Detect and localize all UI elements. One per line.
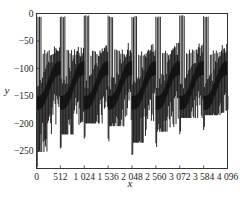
chart: 05121 0241 5362 0482 5603 0723 5844 096 …	[0, 0, 240, 197]
x-tick-label: 3 072	[169, 172, 191, 182]
x-axis-label: x	[127, 177, 133, 189]
y-tick-label: −100	[14, 64, 34, 74]
x-tick-label: 4 096	[217, 172, 239, 182]
x-axis: 05121 0241 5362 0482 5603 0723 5844 096	[34, 166, 238, 182]
x-tick-label: 2 560	[145, 172, 167, 182]
y-tick-label: −250	[14, 146, 34, 156]
y-tick-label: 0	[29, 9, 34, 19]
x-tick-label: 3 584	[193, 172, 215, 182]
x-tick-label: 1 536	[97, 172, 119, 182]
y-axis-label: y	[4, 84, 10, 96]
x-tick-label: 0	[34, 172, 39, 182]
signal-line	[37, 15, 228, 167]
y-tick-label: −150	[14, 91, 34, 101]
y-tick-label: −50	[19, 36, 34, 46]
y-axis: 0−50−100−150−200−250	[14, 9, 40, 156]
y-tick-label: −200	[14, 119, 34, 129]
x-tick-label: 1 024	[74, 172, 96, 182]
x-tick-label: 512	[53, 172, 68, 182]
